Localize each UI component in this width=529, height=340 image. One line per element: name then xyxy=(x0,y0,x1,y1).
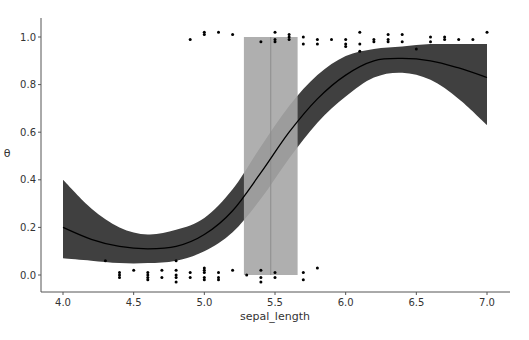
data-point xyxy=(175,274,178,277)
data-point xyxy=(316,43,319,46)
data-point xyxy=(189,38,192,41)
y-tick-label: 0.4 xyxy=(20,174,36,185)
plot-area xyxy=(63,31,489,284)
chart: 4.04.55.05.56.06.57.0 0.00.20.40.60.81.0… xyxy=(0,0,529,340)
data-point xyxy=(358,50,361,53)
data-point xyxy=(245,274,248,277)
data-point xyxy=(217,31,220,34)
data-point xyxy=(259,40,262,43)
data-point xyxy=(429,40,432,43)
data-point xyxy=(217,278,220,281)
data-point xyxy=(471,38,474,41)
data-point xyxy=(104,259,107,262)
data-point xyxy=(443,38,446,41)
data-point xyxy=(146,271,149,274)
data-point xyxy=(259,281,262,284)
data-point xyxy=(358,31,361,34)
x-tick-label: 5.5 xyxy=(267,297,283,308)
data-point xyxy=(118,274,121,277)
x-axis-label: sepal_length xyxy=(240,310,310,323)
data-point xyxy=(217,271,220,274)
x-tick-labels: 4.04.55.05.56.06.57.0 xyxy=(55,292,495,308)
data-point xyxy=(302,278,305,281)
data-point xyxy=(274,31,277,34)
data-point xyxy=(231,33,234,36)
data-point xyxy=(189,271,192,274)
data-point xyxy=(160,269,163,272)
y-axis-label: θ xyxy=(4,147,11,160)
data-point xyxy=(203,269,206,272)
data-point xyxy=(330,38,333,41)
x-tick-label: 4.0 xyxy=(55,297,71,308)
data-point xyxy=(344,43,347,46)
data-point xyxy=(175,259,178,262)
data-point xyxy=(316,266,319,269)
data-point xyxy=(302,271,305,274)
data-point xyxy=(132,269,135,272)
data-point xyxy=(274,276,277,279)
data-point xyxy=(401,33,404,36)
data-point xyxy=(387,40,390,43)
data-point xyxy=(259,269,262,272)
data-point xyxy=(203,278,206,281)
y-tick-label: 0.8 xyxy=(20,79,36,90)
data-point xyxy=(302,36,305,39)
data-point xyxy=(316,38,319,41)
y-tick-label: 0.0 xyxy=(20,270,36,281)
y-tick-label: 1.0 xyxy=(20,32,36,43)
data-point xyxy=(160,276,163,279)
x-tick-label: 6.5 xyxy=(408,297,424,308)
data-point xyxy=(274,40,277,43)
data-point xyxy=(415,47,418,50)
data-point xyxy=(429,36,432,39)
data-point xyxy=(175,281,178,284)
data-point xyxy=(457,38,460,41)
x-tick-label: 6.0 xyxy=(338,297,354,308)
data-point xyxy=(486,31,489,34)
data-point xyxy=(358,43,361,46)
data-point xyxy=(259,276,262,279)
data-point xyxy=(203,31,206,34)
data-point xyxy=(302,43,305,46)
x-tick-label: 4.5 xyxy=(126,297,142,308)
data-point xyxy=(231,269,234,272)
x-tick-label: 5.0 xyxy=(196,297,212,308)
y-tick-label: 0.6 xyxy=(20,127,36,138)
y-tick-label: 0.2 xyxy=(20,222,36,233)
data-point xyxy=(387,33,390,36)
x-tick-label: 7.0 xyxy=(479,297,495,308)
data-point xyxy=(401,40,404,43)
data-point xyxy=(175,269,178,272)
data-point xyxy=(189,276,192,279)
data-point xyxy=(288,38,291,41)
data-point xyxy=(274,271,277,274)
data-point xyxy=(146,276,149,279)
data-point xyxy=(344,38,347,41)
data-point xyxy=(372,40,375,43)
y-tick-labels: 0.00.20.40.60.81.0 xyxy=(20,32,41,281)
